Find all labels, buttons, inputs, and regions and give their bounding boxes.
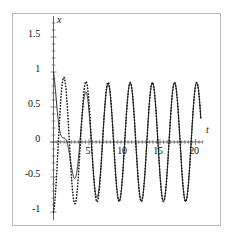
figure-canvas: 1.5 1 0.5 0 -0.5 -1 5 10 15 20 x t xyxy=(0,0,233,236)
ytick-label-1.5: 1.5 xyxy=(18,28,40,39)
y-axis-name: x xyxy=(57,14,61,25)
xtick-label-5: 5 xyxy=(80,145,96,156)
xtick-label-15: 15 xyxy=(149,145,167,156)
x-axis-name: t xyxy=(206,124,209,135)
ytick-label-0: 0 xyxy=(18,133,40,144)
ytick-label-0.5: 0.5 xyxy=(18,98,40,109)
ytick-label-minus-1: -1 xyxy=(13,203,40,214)
solid-curve xyxy=(54,72,201,202)
ytick-label-minus-0.5: -0.5 xyxy=(13,168,40,179)
xtick-label-10: 10 xyxy=(113,145,131,156)
ytick-label-1: 1 xyxy=(18,63,40,74)
xtick-label-20: 20 xyxy=(185,145,203,156)
